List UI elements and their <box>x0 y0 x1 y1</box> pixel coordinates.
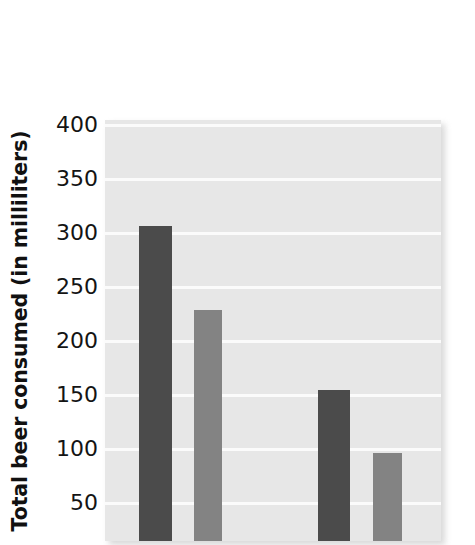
y-axis-tick-150: 150 <box>56 382 98 407</box>
y-axis-tick-250: 250 <box>56 274 98 299</box>
bar-4 <box>373 453 402 541</box>
bar-1 <box>139 226 172 541</box>
y-axis-tick-400: 400 <box>56 112 98 137</box>
bar-2 <box>194 310 222 541</box>
y-axis-title: Total beer consumed (in milliliters) <box>8 130 32 531</box>
gridline-400 <box>105 124 441 127</box>
y-axis-title-container: Total beer consumed (in milliliters) <box>0 120 40 541</box>
y-axis-tick-300: 300 <box>56 220 98 245</box>
gridline-350 <box>105 178 441 181</box>
y-axis-tick-50: 50 <box>70 490 98 515</box>
bar-3 <box>318 390 350 541</box>
y-axis-tick-100: 100 <box>56 436 98 461</box>
y-axis-tick-200: 200 <box>56 328 98 353</box>
y-axis-tick-labels: 40035030025020015010050 <box>40 0 102 541</box>
plot-area <box>105 120 441 541</box>
y-axis-tick-350: 350 <box>56 166 98 191</box>
